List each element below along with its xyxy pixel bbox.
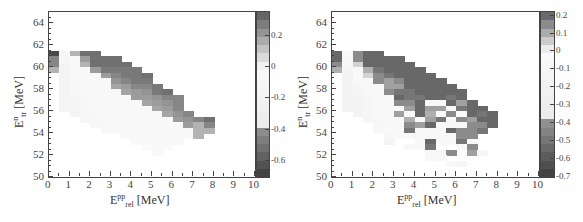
- y-tick: [331, 176, 336, 177]
- colorbar-tick-label: -0.4: [271, 125, 285, 134]
- heatmap-cell: [363, 117, 374, 123]
- heatmap-cell: [353, 111, 364, 117]
- heatmap-cell: [404, 144, 415, 150]
- x-tick-label: 5: [148, 179, 154, 190]
- y-tick: [48, 17, 51, 18]
- y-tick-label: 60: [316, 61, 327, 72]
- colorbar-tick: [550, 15, 555, 16]
- colorbar-tick: [265, 160, 270, 161]
- y-tick: [48, 138, 51, 139]
- y-tick: [48, 154, 53, 155]
- y-tick: [331, 88, 336, 89]
- y-tick: [331, 143, 334, 144]
- x-tick-label: 7: [473, 179, 479, 190]
- x-tick-label: 0: [328, 179, 334, 190]
- x-tick: [435, 171, 436, 176]
- colorbar-tick-label: 0: [271, 62, 276, 71]
- colorbar-tick-label: -0.2: [556, 82, 570, 91]
- y-tick: [48, 121, 51, 122]
- heatmap-cell: [446, 161, 457, 167]
- x-tick: [161, 173, 162, 176]
- heatmap-cell: [436, 139, 447, 145]
- colorbar-tick: [550, 50, 555, 51]
- heatmap-cell: [342, 106, 353, 112]
- x-tick: [352, 171, 353, 176]
- colorbar-tick: [265, 66, 270, 67]
- y-tick: [331, 110, 336, 111]
- x-tick: [403, 173, 404, 176]
- y-tick: [331, 33, 334, 34]
- colorbar-tick-label: -0.1: [556, 64, 570, 73]
- y-tick: [48, 44, 53, 45]
- y-tick: [331, 171, 334, 172]
- x-tick: [507, 173, 508, 176]
- y-tick-label: 54: [33, 127, 44, 138]
- colorbar-tick-label: -0.7: [556, 172, 570, 181]
- y-tick: [331, 154, 336, 155]
- y-tick-label: 56: [316, 105, 327, 116]
- x-tick: [466, 173, 467, 176]
- x-tick: [341, 173, 342, 176]
- x-tick: [233, 171, 234, 176]
- x-tick: [141, 173, 142, 176]
- heatmap-plot-right: [331, 11, 540, 178]
- y-tick: [48, 143, 51, 144]
- colorbar-tick: [265, 129, 270, 130]
- x-tick: [254, 171, 255, 176]
- colorbar-tick-label: 0.2: [271, 31, 282, 40]
- colorbar-segment: [257, 169, 269, 178]
- colorbar-tick: [550, 176, 555, 177]
- y-tick: [48, 99, 51, 100]
- heatmap-cell: [384, 139, 395, 145]
- colorbar-tick-label: 0.1: [556, 29, 567, 38]
- x-tick: [192, 171, 193, 176]
- colorbar-tick-label: -0.3: [556, 100, 570, 109]
- x-tick: [497, 171, 498, 176]
- x-tick-label: 3: [390, 179, 396, 190]
- x-tick: [130, 171, 131, 176]
- x-tick: [362, 173, 363, 176]
- y-tick: [331, 138, 334, 139]
- y-tick: [48, 88, 53, 89]
- x-tick: [100, 173, 101, 176]
- y-tick: [331, 72, 334, 73]
- x-tick-label: 1: [349, 179, 355, 190]
- y-tick-label: 62: [316, 39, 327, 50]
- y-tick: [331, 50, 334, 51]
- heatmap-cell: [477, 128, 488, 134]
- x-tick: [424, 173, 425, 176]
- x-tick: [414, 171, 415, 176]
- heatmap-cell: [394, 133, 405, 139]
- y-tick: [48, 83, 51, 84]
- y-tick: [331, 149, 334, 150]
- y-tick: [331, 116, 334, 117]
- x-tick: [89, 171, 90, 176]
- x-tick: [455, 171, 456, 176]
- colorbar-tick: [550, 140, 555, 141]
- heatmap-cell: [415, 144, 426, 150]
- y-tick-label: 56: [33, 105, 44, 116]
- y-tick: [48, 61, 51, 62]
- colorbar-tick: [265, 35, 270, 36]
- y-tick-label: 52: [316, 149, 327, 160]
- x-tick: [393, 171, 394, 176]
- y-tick: [331, 17, 334, 18]
- x-tick: [213, 171, 214, 176]
- x-tick: [538, 171, 539, 176]
- colorbar-tick-label: 0.2: [556, 11, 567, 20]
- colorbar-tick-label: -0.6: [271, 156, 285, 165]
- heatmap-cell: [173, 139, 184, 145]
- heatmap-cell: [373, 128, 384, 134]
- y-tick-label: 64: [316, 17, 327, 28]
- x-tick: [517, 171, 518, 176]
- colorbar-left: [256, 11, 270, 178]
- y-tick: [331, 61, 334, 62]
- colorbar-tick-label: -0.6: [556, 154, 570, 163]
- colorbar-tick-label: -0.5: [556, 136, 570, 145]
- x-tick-label: 10: [532, 179, 543, 190]
- x-tick: [58, 173, 59, 176]
- x-tick: [110, 171, 111, 176]
- x-tick: [182, 173, 183, 176]
- x-tick: [223, 173, 224, 176]
- colorbar-tick: [265, 97, 270, 98]
